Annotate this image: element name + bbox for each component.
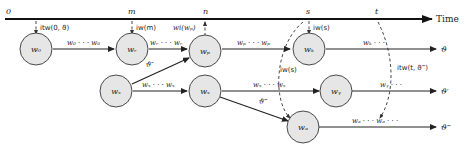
node-wr: wᵣ [116,33,148,65]
node-wy: wᵧ [320,75,352,107]
node-wp: wₚ [189,35,221,67]
annotation-iwm: iw(m) [136,24,156,32]
annotation-iws-mid: iw(s) [280,66,297,74]
node-label-wr: wᵣ [127,45,137,54]
node-label-wk: wₖ [304,45,314,54]
node-wa: wₐ [287,111,319,143]
edge-label-wp-wk: wₚ · · · wₚ [237,39,270,47]
annotation-iws-top: iw(s) [313,24,330,32]
annotation-itw0: itw(0, ϑ) [40,24,69,32]
node-w0: w₀ [20,33,52,65]
annotation-itwt: itw(t, ϑ‴) [397,64,428,72]
node-label-wa: wₐ [298,123,308,132]
annotation-wiwp: wi(wₚ) [173,24,196,32]
edge-label-wz-wz: wₓ · · · wₓ [142,81,175,89]
edge-label-wz-wy: wₓ · · · wₓ [253,81,286,89]
edge-label-w0-wr: w₀ · · · w₀ [67,39,100,47]
edge-label-wr-wp: wᵣ · · · wᵣ [150,39,183,47]
node-label-wz-left: wₓ [111,87,121,96]
tick-m: m [128,7,136,16]
time-axis-label: Time [436,14,459,24]
workflow-timeline-diagram: Time 0 m n s t itw(0, ϑ) iw(m) wi(wₚ) iw… [0,0,474,151]
node-label-wy: wᵧ [331,87,341,96]
tick-n: n [203,7,208,16]
node-label-wz-right: wₓ [200,87,210,96]
output-theta: ϑ [441,45,447,54]
edge-label-wa-end: wₐ · · · wₐ · · · [352,117,398,125]
itwt-curve [378,22,391,118]
node-label-w0: w₀ [31,45,42,54]
branch-label-theta2: ϑ″ [146,61,154,69]
edge-wz-wa [220,97,288,121]
output-theta1: ϑ′ [441,87,449,96]
tick-t: t [375,7,379,16]
node-wk: wₖ [293,33,325,65]
node-label-wp: wₚ [200,47,211,56]
edge-label-wk-end: wₖ · · · [363,39,385,47]
branch-label-theta3: ϑ‴ [259,98,268,106]
node-wz-left: wₓ [100,75,132,107]
tick-0: 0 [6,7,11,16]
edge-label-wy-end: wᵧ · · · [380,81,402,89]
tick-s: s [306,7,310,16]
node-wz-right: wₓ [189,75,221,107]
output-theta3: ϑ‴ [441,123,452,132]
